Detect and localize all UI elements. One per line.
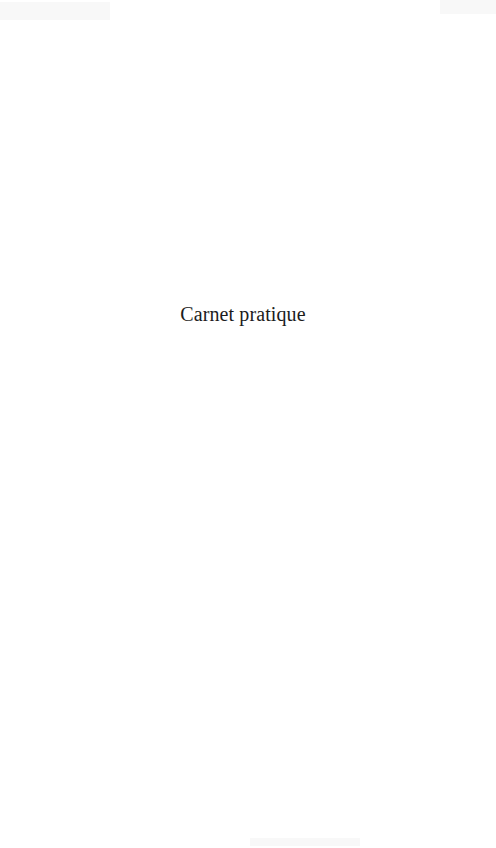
scan-noise-top-left	[0, 2, 110, 20]
scan-noise-bottom	[250, 838, 360, 846]
scan-noise-top-right	[440, 0, 496, 14]
book-page: Carnet pratique	[0, 0, 496, 848]
page-title: Carnet pratique	[0, 301, 486, 327]
